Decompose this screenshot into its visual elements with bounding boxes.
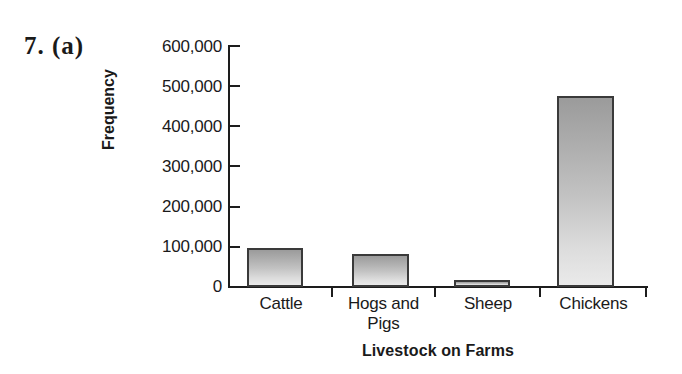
y-tick-label-0: 0: [122, 278, 222, 295]
y-tick-label-600000: 600,000: [122, 38, 222, 55]
y-tick-label-300000: 300,000: [122, 158, 222, 175]
bar-chickens: [557, 96, 614, 287]
y-tick-label-200000: 200,000: [122, 198, 222, 215]
y-tick-label-500000: 500,000: [122, 78, 222, 95]
x-category-label-cattle: Cattle: [230, 294, 332, 314]
plot-area: [228, 46, 645, 287]
bar-chart-figure: 600,000 500,000 400,000 300,000 200,000 …: [0, 0, 682, 374]
x-category-label-hogs-and-pigs: Hogs and Pigs: [332, 294, 435, 334]
x-category-label-sheep: Sheep: [436, 294, 540, 314]
bar-cattle: [247, 248, 303, 287]
y-tick-label-400000: 400,000: [122, 118, 222, 135]
bar-hogs-and-pigs: [352, 254, 409, 287]
x-category-label-chickens: Chickens: [541, 294, 646, 314]
y-axis-title: Frequency: [100, 124, 118, 150]
y-tick-label-100000: 100,000: [122, 238, 222, 255]
x-axis-title: Livestock on Farms: [228, 342, 648, 360]
bar-sheep: [454, 280, 510, 287]
y-axis-tick-labels: 600,000 500,000 400,000 300,000 200,000 …: [118, 0, 222, 374]
